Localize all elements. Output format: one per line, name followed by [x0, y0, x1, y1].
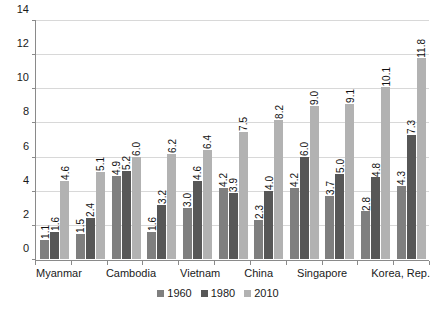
y-axis-tick-label: 4: [23, 174, 29, 186]
bar-group: 4.26.09.0: [286, 21, 322, 259]
bar[interactable]: [229, 193, 238, 259]
bar-value-label: 2.4: [86, 203, 95, 217]
bar[interactable]: [96, 172, 105, 259]
bar-slot: 4.2: [219, 21, 228, 259]
x-axis-category-label: Vietnam: [180, 267, 220, 285]
bar-value-label: 6.0: [132, 142, 141, 156]
y-axis-tick: [32, 88, 36, 89]
chart-legend: 196019802010: [0, 287, 436, 299]
bar[interactable]: [203, 150, 212, 259]
bar[interactable]: [157, 205, 166, 259]
x-axis-tick: [35, 261, 36, 265]
bar[interactable]: [132, 157, 141, 259]
bar-slot: 9.1: [345, 21, 354, 259]
bar[interactable]: [361, 211, 370, 259]
bar-slot: 6.2: [167, 21, 176, 259]
bar-value-label: 4.0: [264, 176, 273, 190]
bar-slot: 4.6: [60, 21, 69, 259]
bar-slot: 3.2: [157, 21, 166, 259]
bar[interactable]: [167, 154, 176, 259]
bar[interactable]: [112, 176, 121, 259]
bar[interactable]: [147, 232, 156, 259]
bar[interactable]: [239, 132, 248, 260]
bar-slot: 1.1: [40, 21, 49, 259]
bar-slot: 4.2: [290, 21, 299, 259]
x-axis-category-label-empty: [347, 267, 371, 285]
legend-item[interactable]: 1980: [201, 287, 235, 299]
bar[interactable]: [86, 218, 95, 259]
bar-group: 1.63.26.2: [144, 21, 180, 259]
bar[interactable]: [407, 135, 416, 259]
y-axis-tick-label: 10: [17, 71, 29, 83]
bar-slot: 5.1: [96, 21, 105, 259]
bar[interactable]: [122, 171, 131, 259]
bar-group: 2.34.08.2: [251, 21, 287, 259]
bar-slot: 6.4: [203, 21, 212, 259]
bar[interactable]: [274, 120, 283, 259]
bar[interactable]: [371, 177, 380, 259]
bar[interactable]: [60, 181, 69, 259]
bar-value-label: 5.0: [335, 159, 344, 173]
x-axis-category-label-empty: [220, 267, 244, 285]
bar-slot: 4.9: [112, 21, 121, 259]
bar-value-label: 3.9: [229, 178, 238, 192]
bar[interactable]: [193, 181, 202, 259]
bar[interactable]: [345, 104, 354, 259]
bar[interactable]: [300, 157, 309, 259]
x-axis-tick: [250, 261, 251, 265]
bar-slot: 5.2: [122, 21, 131, 259]
y-axis-tick-label: 12: [17, 37, 29, 49]
bar[interactable]: [290, 188, 299, 259]
bar[interactable]: [254, 220, 263, 259]
x-axis-tick: [178, 261, 179, 265]
bar[interactable]: [310, 106, 319, 259]
legend-swatch-icon: [201, 290, 208, 297]
bar-value-label: 4.6: [60, 166, 69, 180]
bar-value-label: 3.2: [157, 190, 166, 204]
x-axis-category-label-empty: [156, 267, 180, 285]
bar[interactable]: [219, 188, 228, 259]
bar-group: 4.95.26.0: [108, 21, 144, 259]
y-axis-tick: [32, 54, 36, 55]
y-axis-tick-label: 8: [23, 105, 29, 117]
bar[interactable]: [50, 232, 59, 259]
bar-group: 4.23.97.5: [215, 21, 251, 259]
bar-value-label: 4.8: [371, 163, 380, 177]
y-axis-tick: [32, 225, 36, 226]
bar-slot: 2.8: [361, 21, 370, 259]
bar-slot: 1.6: [147, 21, 156, 259]
bar-slot: 8.2: [274, 21, 283, 259]
bar-value-label: 1.5: [76, 219, 85, 233]
bar-slot: 1.6: [50, 21, 59, 259]
plot-area: 02468101214 1.11.64.61.52.45.14.95.26.01…: [35, 21, 429, 261]
y-axis-tick-label: 14: [17, 3, 29, 15]
bar-slot: 7.5: [239, 21, 248, 259]
bar-value-label: 4.2: [219, 173, 228, 187]
x-axis-category-label-empty: [82, 267, 106, 285]
x-axis-tick: [286, 261, 287, 265]
y-axis-tick-label: 6: [23, 140, 29, 152]
legend-item[interactable]: 1960: [157, 287, 191, 299]
bar[interactable]: [325, 196, 334, 259]
legend-label: 2010: [254, 287, 278, 299]
y-axis-tick: [32, 157, 36, 158]
bar[interactable]: [40, 240, 49, 259]
bar-slot: 4.8: [371, 21, 380, 259]
y-axis-tick: [32, 20, 36, 21]
x-axis-tick: [357, 261, 358, 265]
bar[interactable]: [417, 58, 426, 259]
bar-slot: 11.8: [417, 21, 426, 259]
x-axis-ticks: [35, 261, 429, 266]
bar[interactable]: [264, 191, 273, 259]
bar-value-label: 9.0: [310, 91, 319, 105]
bar[interactable]: [183, 208, 192, 259]
y-axis-tick: [32, 122, 36, 123]
bar[interactable]: [335, 174, 344, 259]
x-axis-category-label: Korea, Rep.: [371, 267, 430, 285]
bar-value-label: 4.2: [290, 173, 299, 187]
bar[interactable]: [76, 234, 85, 260]
bar[interactable]: [381, 87, 390, 259]
legend-item[interactable]: 2010: [244, 287, 278, 299]
legend-label: 1980: [211, 287, 235, 299]
bar[interactable]: [397, 186, 406, 259]
